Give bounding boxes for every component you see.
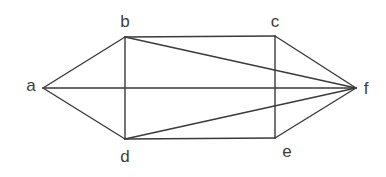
edge-d-e [125,138,275,139]
vertex-label-e: e [282,142,291,161]
vertex-label-d: d [120,147,129,166]
edge-c-f [275,36,356,88]
edges-group [43,36,356,139]
graph-diagram: a b c d e f [0,0,386,177]
edge-e-f [275,88,356,138]
edge-a-b [43,37,125,88]
vertex-label-c: c [271,12,280,31]
vertex-label-f: f [364,79,369,98]
edge-b-f [125,37,356,88]
vertex-label-a: a [26,76,36,95]
edge-b-c [125,36,275,37]
graph-canvas: a b c d e f [0,0,386,177]
edge-a-d [43,88,125,139]
vertex-label-b: b [120,12,129,31]
edge-d-f [125,88,356,139]
vertex-labels-group: a b c d e f [26,12,368,166]
